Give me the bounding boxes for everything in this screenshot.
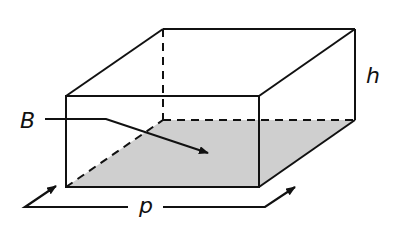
perimeter-arrows (25, 186, 295, 207)
prism-svg: B h p (0, 0, 396, 244)
label-perimeter: p (138, 193, 153, 218)
base-face (66, 120, 355, 187)
label-base: B (20, 108, 35, 133)
label-height: h (366, 63, 380, 88)
prism-diagram: B h p (0, 0, 396, 244)
